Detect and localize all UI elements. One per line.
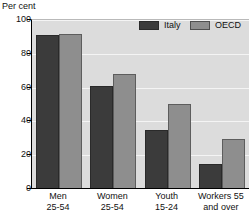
legend-item-oecd: OECD — [190, 21, 241, 30]
y-axis-unit-label: Per cent — [2, 1, 36, 11]
legend-label-italy: Italy — [164, 21, 181, 30]
bar-oecd-0 — [59, 34, 82, 189]
legend-swatch-oecd — [190, 21, 210, 30]
x-axis-category-labels: Men25-54Women25-54Youth15-24Workers 55an… — [31, 191, 249, 221]
x-axis-label-1: Women25-54 — [85, 191, 139, 213]
bar-italy-0 — [36, 35, 59, 189]
bar-italy-1 — [90, 86, 113, 189]
bar-italy-3 — [199, 164, 222, 189]
x-axis-label-2: Youth15-24 — [140, 191, 194, 213]
bar-oecd-2 — [168, 104, 191, 189]
bar-oecd-1 — [113, 74, 136, 189]
bar-oecd-3 — [222, 139, 245, 189]
bar-chart: Per cent 020406080100 Men25-54Women25-54… — [0, 0, 251, 222]
x-axis-line — [31, 188, 249, 189]
legend-swatch-italy — [139, 21, 159, 30]
x-axis-label-0: Men25-54 — [31, 191, 85, 213]
x-axis-label-3: Workers 55and over — [194, 191, 248, 213]
plot-area — [31, 19, 249, 189]
legend-label-oecd: OECD — [215, 21, 241, 30]
legend-item-italy: Italy — [139, 21, 181, 30]
bar-italy-2 — [145, 130, 168, 189]
